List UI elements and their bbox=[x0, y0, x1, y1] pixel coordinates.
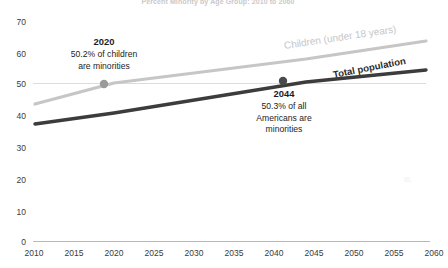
x-axis-tick-2015: 2015 bbox=[54, 249, 94, 258]
x-axis-tick-2055: 2055 bbox=[374, 249, 414, 258]
annotation-2044-line3: minorities bbox=[266, 124, 303, 134]
annotation-2044-line2: Americans are bbox=[256, 113, 311, 123]
annotation-2020-year: 2020 bbox=[39, 36, 169, 48]
data-point-marker-2020 bbox=[100, 80, 108, 88]
y-axis-tick-10: 10 bbox=[4, 208, 26, 217]
data-point-marker-2044 bbox=[279, 77, 287, 85]
x-axis-tick-2060: 2060 bbox=[414, 249, 448, 258]
y-axis-tick-60: 60 bbox=[4, 50, 26, 59]
x-axis-tick-2050: 2050 bbox=[334, 249, 374, 258]
x-axis-tick-2010: 2010 bbox=[14, 249, 54, 258]
y-axis-tick-40: 40 bbox=[4, 112, 26, 121]
x-axis-tick-2030: 2030 bbox=[174, 249, 214, 258]
annotation-2044-year: 2044 bbox=[219, 88, 349, 100]
annotation-2044: 2044 50.3% of all Americans are minoriti… bbox=[219, 88, 349, 135]
annotation-2044-line1: 50.3% of all bbox=[262, 101, 307, 111]
y-axis-tick-70: 70 bbox=[4, 18, 26, 27]
y-axis-tick-20: 20 bbox=[4, 176, 26, 185]
annotation-2020-line2: are minorities bbox=[78, 61, 130, 71]
x-axis-tick-2025: 2025 bbox=[134, 249, 174, 258]
annotation-2020-line1: 50.2% of children bbox=[71, 49, 137, 59]
y-axis-tick-50: 50 bbox=[4, 80, 26, 89]
x-axis-tick-2020: 2020 bbox=[94, 249, 134, 258]
x-axis-tick-2045: 2045 bbox=[294, 249, 334, 258]
y-axis-tick-0: 0 bbox=[4, 238, 26, 247]
y-axis-tick-30: 30 bbox=[4, 144, 26, 153]
watermark: IIL bbox=[404, 176, 412, 183]
annotation-2020: 2020 50.2% of children are minorities bbox=[39, 36, 169, 72]
x-axis-tick-2035: 2035 bbox=[214, 249, 254, 258]
x-axis-tick-2040: 2040 bbox=[254, 249, 294, 258]
